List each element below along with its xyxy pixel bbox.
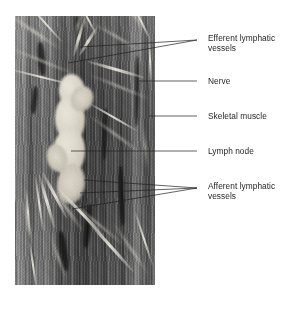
label-skeletal-muscle: Skeletal muscle	[208, 111, 267, 121]
labeled-micrograph-figure: Efferent lymphatic vessels Nerve Skeleta…	[0, 0, 303, 310]
lymph-node-micrograph	[15, 16, 155, 285]
label-lymph-node: Lymph node	[208, 146, 254, 156]
label-nerve: Nerve	[208, 76, 230, 86]
photo-grain-overlay	[15, 16, 155, 285]
label-afferent-lymphatic-vessels: Afferent lymphatic vessels	[208, 181, 275, 202]
label-efferent-lymphatic-vessels: Efferent lymphatic vessels	[208, 33, 275, 54]
